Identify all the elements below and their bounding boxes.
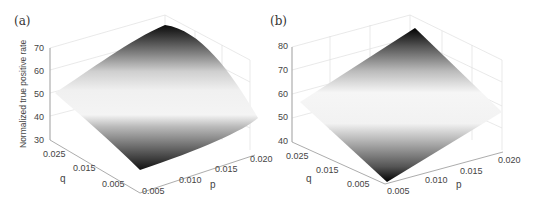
z-tick-a-60: 60 — [34, 67, 44, 76]
q-axis-label-b: q — [306, 174, 312, 184]
q-tick-a-1: 0.015 — [73, 164, 96, 173]
q-tick-b-1: 0.015 — [316, 166, 339, 175]
panel-b: (b) 80 70 60 50 40 0.025 0.015 0.005 q 0… — [270, 0, 540, 207]
panel-label-b: (b) — [270, 14, 287, 28]
z-tick-a-70: 70 — [34, 44, 44, 53]
surface-plot-a — [0, 0, 270, 207]
p-tick-b-2: 0.015 — [460, 167, 483, 176]
p-tick-a-2: 0.015 — [215, 165, 238, 174]
z-tick-b-40: 40 — [278, 137, 288, 146]
z-tick-b-70: 70 — [278, 66, 288, 75]
q-tick-a-0: 0.025 — [43, 150, 66, 159]
q-tick-a-2: 0.005 — [102, 180, 125, 189]
z-tick-a-50: 50 — [34, 90, 44, 99]
z-tick-a-30: 30 — [34, 136, 44, 145]
z-tick-b-80: 80 — [278, 42, 288, 51]
q-axis-label-a: q — [60, 174, 66, 184]
p-tick-b-3: 0.020 — [498, 156, 521, 165]
q-tick-b-2: 0.005 — [347, 180, 370, 189]
p-tick-b-0: 0.005 — [387, 187, 410, 196]
p-tick-a-0: 0.005 — [142, 187, 165, 196]
p-tick-b-1: 0.010 — [425, 176, 448, 185]
p-axis-label-b: p — [456, 180, 462, 190]
panel-a: (a) Normalized true positive rate 70 60 … — [0, 0, 270, 207]
p-axis-label-a: p — [210, 180, 216, 190]
q-tick-b-0: 0.025 — [286, 152, 309, 161]
z-tick-b-60: 60 — [278, 90, 288, 99]
z-axis-label-a: Normalized true positive rate — [18, 40, 28, 148]
p-tick-a-1: 0.010 — [179, 176, 202, 185]
z-tick-b-50: 50 — [278, 113, 288, 122]
panel-label-a: (a) — [14, 14, 31, 28]
z-tick-a-40: 40 — [34, 113, 44, 122]
